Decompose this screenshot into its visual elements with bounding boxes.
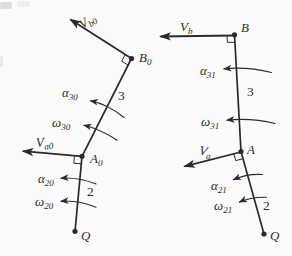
point-q-left [72,229,77,234]
point-a0 [79,154,84,159]
scan-artifact [0,2,12,9]
label-point-q-right: Q [270,228,280,243]
label-point-a: A [246,142,255,157]
label-link3-left: 3 [118,88,125,103]
scan-artifact [0,56,3,67]
label-point-b: B [241,20,249,35]
point-q-right [261,231,266,236]
label-point-q-left: Q [81,228,91,243]
label-link2-right: 2 [263,198,270,213]
label-link2-left: 2 [87,184,94,199]
kinematic-mechanism-diagram: Vb0 B0 α30 3 ω30 Va0 A0 α20 2 ω20 Q Vb B… [0,0,292,256]
figure-canvas: Vb0 B0 α30 3 ω30 Va0 A0 α20 2 ω20 Q Vb B… [0,0,292,256]
velocity-vector-vb [161,36,235,37]
background [0,0,292,256]
point-a [238,149,243,154]
label-link3-right: 3 [247,84,254,99]
point-b [232,32,237,37]
point-b0 [129,56,134,61]
scan-artifact [17,1,30,7]
